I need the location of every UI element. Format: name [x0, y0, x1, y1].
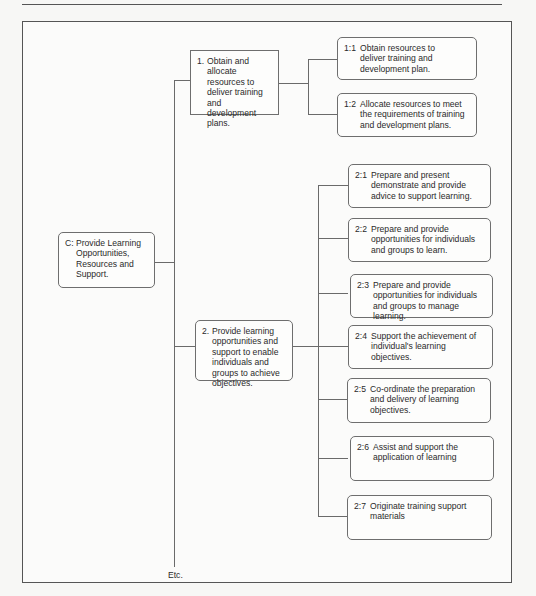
- node-label: Obtain resources to deliver training and…: [344, 43, 470, 74]
- root-connector: [155, 262, 175, 263]
- branch-1-connector: [174, 80, 190, 81]
- branch-1-spine: [308, 59, 309, 115]
- main-trunk-line: [174, 80, 175, 567]
- branch-node-1: 1. Obtain and allocate resources to deli…: [190, 50, 279, 115]
- node-number: 1:1: [344, 43, 356, 53]
- child-node-1-2: 1:2 Allocate resources to meet the requi…: [337, 93, 477, 137]
- node-label: Prepare and provide opportunities for in…: [355, 224, 484, 255]
- node-label: Assist and support the application of le…: [357, 442, 487, 463]
- node-label: Originate training support materials: [354, 501, 485, 522]
- child-2-7-connector: [318, 516, 348, 517]
- node-label: Obtain and allocate resources to deliver…: [197, 56, 272, 129]
- child-2-3-connector: [318, 293, 348, 294]
- node-number: 2:1: [355, 170, 367, 180]
- child-node-2-4: 2:4 Support the achievement of individua…: [348, 325, 493, 369]
- node-label: Co-ordinate the preparation and delivery…: [354, 384, 484, 415]
- child-node-2-2: 2:2 Prepare and provide opportunities fo…: [348, 218, 491, 262]
- node-label: Support the achievement of individual's …: [355, 331, 486, 362]
- child-2-1-connector: [318, 185, 348, 186]
- node-label: Prepare and present demonstrate and prov…: [355, 170, 484, 201]
- branch-node-2: 2. Provide learning opportunities and su…: [195, 320, 293, 381]
- continuation-label: Etc.: [168, 570, 183, 580]
- child-1-1-connector: [308, 59, 337, 60]
- branch-1-out-line: [279, 83, 309, 84]
- root-node: C: Provide Learning Opportunities, Resou…: [58, 232, 155, 288]
- child-2-6-connector: [318, 458, 348, 459]
- node-label: Prepare and provide opportunities for in…: [357, 280, 486, 322]
- node-label: Provide learning opportunities and suppo…: [202, 326, 286, 388]
- child-node-2-1: 2:1 Prepare and present demonstrate and …: [348, 164, 491, 208]
- child-node-2-3: 2:3 Prepare and provide opportunities fo…: [350, 274, 493, 318]
- node-number: 2:5: [354, 384, 366, 394]
- node-number: 2:4: [355, 331, 367, 341]
- node-number: 2:6: [357, 442, 369, 452]
- node-number: 1:2: [344, 99, 356, 109]
- child-node-2-7: 2:7 Originate training support materials: [347, 495, 492, 540]
- child-2-2-connector: [318, 238, 348, 239]
- branch-2-connector: [174, 346, 195, 347]
- child-2-5-connector: [318, 399, 348, 400]
- child-1-2-connector: [308, 114, 337, 115]
- top-rule: [22, 4, 502, 5]
- child-2-4-connector: [318, 346, 348, 347]
- node-number: 2:7: [354, 501, 366, 511]
- branch-2-spine: [318, 185, 319, 516]
- node-label: Provide Learning Opportunities, Resource…: [65, 238, 148, 280]
- node-number: C:: [65, 238, 74, 248]
- child-node-1-1: 1:1 Obtain resources to deliver training…: [337, 37, 477, 80]
- node-number: 1.: [197, 56, 204, 66]
- branch-2-out-line: [293, 346, 319, 347]
- node-number: 2:2: [355, 224, 367, 234]
- node-number: 2:3: [357, 280, 369, 290]
- node-label: Allocate resources to meet the requireme…: [344, 99, 470, 130]
- child-node-2-6: 2:6 Assist and support the application o…: [350, 436, 494, 481]
- node-number: 2.: [202, 326, 209, 336]
- child-node-2-5: 2:5 Co-ordinate the preparation and deli…: [347, 378, 491, 423]
